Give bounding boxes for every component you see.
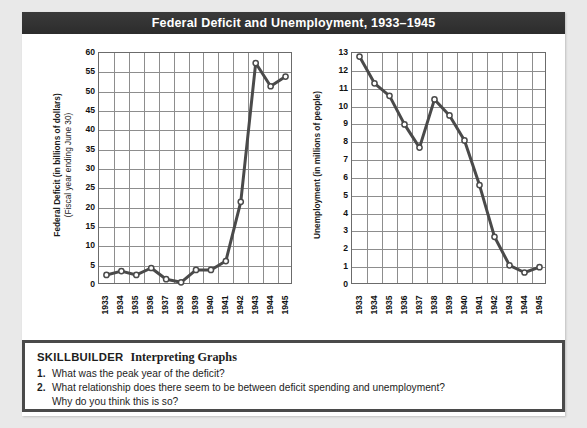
data-point-marker <box>372 81 377 86</box>
charts-container: Federal Deficit (in billions of dollars)… <box>22 34 565 339</box>
x-axis-tick-label: 1940 <box>205 291 215 319</box>
y-axis-tick-label: 3 <box>326 226 348 235</box>
x-axis-tick-label: 1934 <box>369 291 379 319</box>
y-axis-title-line1: Unemployment (in millions of people) <box>312 52 323 278</box>
skillbuilder-label: SKILLBUILDER <box>37 351 123 363</box>
chart-left-plot-area <box>98 52 292 284</box>
y-axis-tick-label: 45 <box>73 106 95 115</box>
data-point-marker <box>104 272 109 277</box>
x-axis-tick-label: 1940 <box>459 291 469 319</box>
x-axis-tick-label: 1942 <box>489 291 499 319</box>
data-point-marker <box>178 280 183 285</box>
y-axis-title-line1: Federal Deficit (in billions of dollars) <box>52 52 63 278</box>
x-axis-tick-label: 1941 <box>220 291 230 319</box>
data-point-marker <box>447 113 452 118</box>
x-axis-tick-label: 1945 <box>280 291 290 319</box>
y-axis-tick-label: 50 <box>73 86 95 95</box>
skillbuilder-box: SKILLBUILDERInterpreting Graphs 1.What w… <box>22 340 565 412</box>
x-axis-tick-label: 1937 <box>160 291 170 319</box>
data-series <box>99 53 293 285</box>
y-axis-tick-label: 35 <box>73 144 95 153</box>
figure-page: Federal Deficit and Unemployment, 1933–1… <box>0 0 587 428</box>
data-point-marker <box>193 267 198 272</box>
data-point-marker <box>507 263 512 268</box>
x-axis-tick-label: 1942 <box>235 291 245 319</box>
x-axis-tick-label: 1944 <box>519 291 529 319</box>
y-axis-tick-label: 1 <box>326 262 348 271</box>
x-axis-tick-label: 1939 <box>444 291 454 319</box>
question-number: 1. <box>37 367 52 380</box>
y-axis-tick-label: 25 <box>73 183 95 192</box>
x-axis-tick-label: 1937 <box>414 291 424 319</box>
data-point-marker <box>134 272 139 277</box>
x-axis-tick-label: 1934 <box>115 291 125 319</box>
x-axis-tick-label: 1941 <box>474 291 484 319</box>
data-point-marker <box>223 258 228 263</box>
x-axis-tick-label: 1944 <box>265 291 275 319</box>
x-axis-tick-label: 1943 <box>504 291 514 319</box>
question-text: What relationship does there seem to be … <box>52 381 552 408</box>
plot-frame <box>351 52 546 284</box>
y-axis-tick-label: 13 <box>326 48 348 57</box>
y-axis-tick-label: 15 <box>73 222 95 231</box>
chart-right-y-axis-title: Unemployment (in millions of people) <box>312 52 323 278</box>
question-text: What was the peak year of the deficit? <box>52 367 552 380</box>
y-axis-tick-label: 0 <box>73 280 95 289</box>
y-axis-tick-label: 11 <box>326 83 348 92</box>
x-axis-tick-label: 1936 <box>399 291 409 319</box>
data-point-marker <box>208 267 213 272</box>
y-axis-tick-label: 2 <box>326 244 348 253</box>
y-axis-tick-label: 30 <box>73 164 95 173</box>
page-title: Federal Deficit and Unemployment, 1933–1… <box>152 16 436 30</box>
chart-right-plot-area <box>351 52 546 284</box>
y-axis-tick-label: 12 <box>326 65 348 74</box>
x-axis-tick-label: 1936 <box>145 291 155 319</box>
y-axis-tick-label: 8 <box>326 137 348 146</box>
data-point-marker <box>357 54 362 59</box>
data-point-marker <box>387 93 392 98</box>
data-point-marker <box>164 277 169 282</box>
y-axis-tick-label: 6 <box>326 172 348 181</box>
data-series <box>352 53 547 285</box>
skillbuilder-question: 2.What relationship does there seem to b… <box>37 381 552 408</box>
data-point-marker <box>253 60 258 65</box>
question-text-continuation: Why do you think this is so? <box>52 395 552 408</box>
data-point-marker <box>238 199 243 204</box>
y-axis-tick-label: 4 <box>326 208 348 217</box>
series-line <box>360 57 540 273</box>
y-axis-tick-label: 10 <box>326 101 348 110</box>
data-point-marker <box>149 265 154 270</box>
y-axis-tick-label: 0 <box>326 280 348 289</box>
data-point-marker <box>417 145 422 150</box>
chart-unemployment: Unemployment (in millions of people) 012… <box>294 34 565 339</box>
y-axis-title-line2: (Fiscal year ending June 30) <box>63 52 74 278</box>
x-axis-tick-label: 1938 <box>175 291 185 319</box>
series-line <box>106 63 285 282</box>
x-axis-tick-label: 1935 <box>384 291 394 319</box>
data-point-marker <box>492 234 497 239</box>
x-axis-tick-label: 1943 <box>250 291 260 319</box>
data-point-marker <box>432 97 437 102</box>
data-point-marker <box>522 270 527 275</box>
y-axis-tick-label: 40 <box>73 125 95 134</box>
x-axis-tick-label: 1938 <box>429 291 439 319</box>
y-axis-tick-label: 10 <box>73 241 95 250</box>
skillbuilder-question: 1.What was the peak year of the deficit? <box>37 367 552 380</box>
x-axis-tick-label: 1933 <box>100 291 110 319</box>
x-axis-tick-label: 1933 <box>354 291 364 319</box>
x-axis-tick-label: 1945 <box>534 291 544 319</box>
data-point-marker <box>283 74 288 79</box>
skillbuilder-heading: SKILLBUILDERInterpreting Graphs <box>37 350 552 365</box>
y-axis-tick-label: 9 <box>326 119 348 128</box>
data-point-marker <box>477 182 482 187</box>
chart-left-y-axis-title: Federal Deficit (in billions of dollars)… <box>52 52 73 278</box>
skillbuilder-question-list: 1.What was the peak year of the deficit?… <box>37 367 552 408</box>
y-axis-tick-label: 7 <box>326 155 348 164</box>
skillbuilder-subtitle: Interpreting Graphs <box>130 350 236 364</box>
data-point-marker <box>268 84 273 89</box>
chart-federal-deficit: Federal Deficit (in billions of dollars)… <box>22 34 294 339</box>
data-point-marker <box>402 122 407 127</box>
question-number: 2. <box>37 381 52 408</box>
x-axis-tick-label: 1935 <box>130 291 140 319</box>
data-point-marker <box>462 138 467 143</box>
